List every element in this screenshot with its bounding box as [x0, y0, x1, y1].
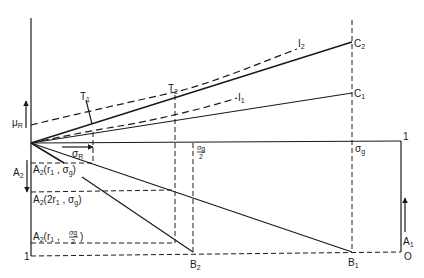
origin-label: O — [404, 251, 412, 262]
mu-r-label: μR — [12, 117, 23, 129]
h-bottom — [31, 252, 401, 256]
t1-label: T1 — [80, 91, 90, 103]
sigma-r-label: σR — [72, 148, 83, 160]
svg-text:2: 2 — [71, 238, 75, 245]
c1-label: C1 — [354, 88, 365, 100]
c2-label: C2 — [354, 38, 365, 50]
svg-text:2: 2 — [199, 153, 203, 160]
a2-label: A2 — [13, 167, 24, 179]
curve-i2 — [31, 49, 297, 125]
svg-text:): ) — [80, 231, 83, 242]
a2-r1-sg-label: A2(r1 , σg) — [33, 164, 76, 177]
one-right-label: 1 — [403, 131, 409, 142]
i1-label: I1 — [238, 92, 245, 104]
a2-2r1-sg-label: A2(2r1 , σg) — [33, 194, 81, 207]
i2-label: I2 — [298, 38, 305, 50]
svg-text:σg: σg — [69, 229, 77, 237]
a2-r1-sg2-label: A2(r1 , — [33, 231, 60, 243]
b1-label: B1 — [348, 257, 359, 269]
sharing-diagram: μR σR A2 T1 T2 I1 I2 C2 C1 σg σg 2 1 1 A… — [0, 0, 424, 278]
a1-label: A1 — [403, 236, 414, 248]
line-to-b2 — [82, 177, 193, 252]
t2-label: T2 — [168, 83, 178, 95]
b2-label: B2 — [190, 259, 201, 271]
sigma-g-label: σg — [355, 143, 365, 156]
sigma-axis — [31, 141, 401, 143]
curve-i1 — [31, 98, 237, 143]
one-left-label: 1 — [24, 251, 30, 262]
sigma-g-half-label: σg 2 — [197, 144, 205, 160]
